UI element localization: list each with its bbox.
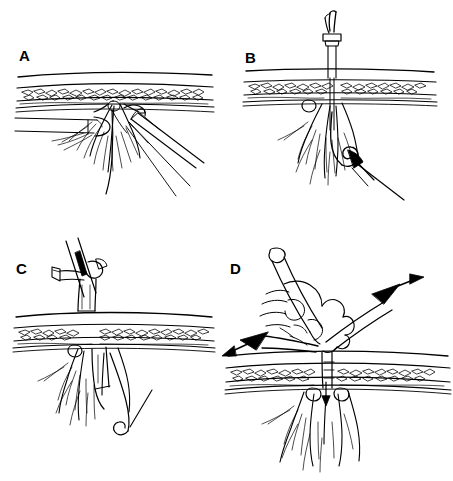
trocar-tip-in-tissue-c: [92, 347, 110, 409]
panel-label-d: D: [230, 261, 241, 276]
abdominal-wall-a: [16, 73, 214, 112]
suture-strand-a: [106, 110, 127, 194]
tissue-pedicle-a: [62, 101, 148, 172]
tissue-pedicle-d: [262, 382, 360, 472]
panel-d: [222, 232, 453, 481]
panel-b: [226, 0, 453, 240]
tissue-pedicle-c: [38, 345, 130, 426]
abdominal-wall-b: [243, 69, 437, 106]
panel-c: [0, 235, 227, 481]
abdominal-wall-c: [13, 313, 215, 353]
grasper-tip-b: [348, 150, 404, 200]
traction-arrow-right-d: [326, 274, 424, 350]
suture-limb-c: [110, 353, 152, 435]
panel-label-c: C: [16, 261, 27, 276]
figure-root: A: [0, 0, 453, 481]
abdominal-wall-d: [225, 351, 451, 394]
trocar-cannula-c: [52, 238, 107, 311]
tissue-pedicle-b: [278, 100, 358, 185]
panel-label-a: A: [19, 48, 30, 63]
panel-label-b: B: [245, 50, 256, 65]
panel-a: [0, 0, 227, 240]
suture-through-wall-d: [322, 352, 334, 388]
